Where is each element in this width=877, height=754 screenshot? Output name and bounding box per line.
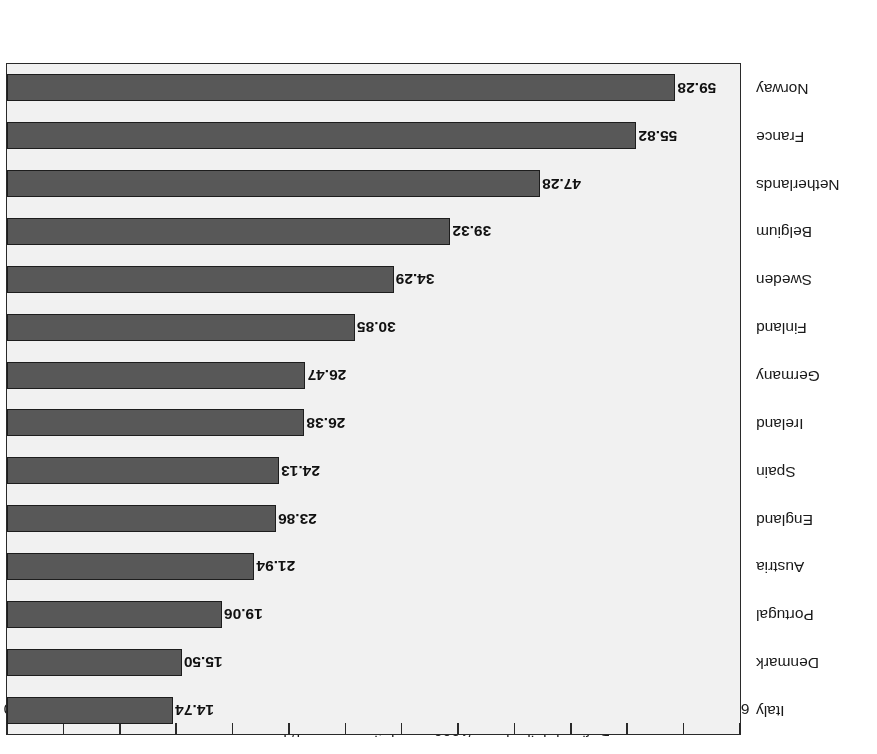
bar-value-label: 14.74 bbox=[175, 701, 221, 719]
category-label: Norway bbox=[756, 80, 809, 98]
category-label: Portugal bbox=[756, 606, 814, 624]
bar bbox=[7, 697, 173, 724]
bar bbox=[7, 649, 182, 676]
x-axis-tick-mark bbox=[457, 723, 459, 734]
x-axis-tick-mark bbox=[683, 723, 685, 734]
x-axis-tick-mark bbox=[570, 723, 572, 734]
bar bbox=[7, 601, 222, 628]
bar-value-label: 39.32 bbox=[452, 223, 498, 241]
bar bbox=[7, 409, 304, 436]
x-axis-tick-mark bbox=[63, 723, 65, 734]
x-axis-tick-mark bbox=[288, 723, 290, 734]
bar bbox=[7, 170, 540, 197]
bar-value-label: 24.13 bbox=[281, 462, 327, 480]
bar bbox=[7, 122, 636, 149]
bar-value-label: 47.28 bbox=[542, 175, 588, 193]
bar-value-label: 19.06 bbox=[224, 605, 270, 623]
x-axis-tick-mark bbox=[232, 723, 234, 734]
bar-value-label: 21.94 bbox=[256, 558, 302, 576]
category-label: Denmark bbox=[756, 654, 819, 672]
bar bbox=[7, 314, 355, 341]
category-label: Spain bbox=[756, 463, 796, 481]
x-axis-tick-mark bbox=[514, 723, 516, 734]
category-label: Ireland bbox=[756, 415, 803, 433]
category-label: Austria bbox=[756, 559, 804, 577]
bar-value-label: 15.50 bbox=[184, 653, 230, 671]
x-axis-tick-mark bbox=[739, 723, 741, 734]
category-label: Italy bbox=[756, 702, 784, 720]
bar-value-label: 23.86 bbox=[278, 510, 324, 528]
bar bbox=[7, 266, 394, 293]
bar bbox=[7, 362, 306, 389]
bar bbox=[7, 74, 675, 101]
bar bbox=[7, 553, 254, 580]
x-axis-tick-mark bbox=[119, 723, 121, 734]
x-axis-tick-mark bbox=[345, 723, 347, 734]
bar bbox=[7, 505, 276, 532]
x-axis-tick-mark bbox=[175, 723, 177, 734]
bar-value-label: 26.47 bbox=[308, 366, 354, 384]
plot-area: 14.7415.5019.0621.9423.8624.1326.3826.47… bbox=[6, 63, 741, 735]
category-label: Netherlands bbox=[756, 176, 840, 194]
category-label: England bbox=[756, 511, 813, 529]
bar-value-label: 30.85 bbox=[357, 318, 403, 336]
category-label: Belgium bbox=[756, 224, 812, 242]
bar bbox=[7, 218, 450, 245]
x-axis-tick-mark bbox=[401, 723, 403, 734]
category-axis-labels: ItalyDenmarkPortugalAustriaEnglandSpainI… bbox=[748, 65, 877, 735]
category-label: Finland bbox=[756, 319, 807, 337]
x-axis-tick-mark bbox=[626, 723, 628, 734]
bar bbox=[7, 457, 279, 484]
bar-value-label: 55.82 bbox=[638, 127, 684, 145]
category-label: France bbox=[756, 128, 804, 146]
category-label: Sweden bbox=[756, 271, 812, 289]
category-label: Germany bbox=[756, 367, 820, 385]
bar-chart-figure: Defined daily doses/1000 population cove… bbox=[0, 0, 877, 754]
bar-value-label: 34.29 bbox=[396, 270, 442, 288]
bar-value-label: 59.28 bbox=[677, 79, 723, 97]
bar-value-label: 26.38 bbox=[306, 414, 352, 432]
x-axis-tick-mark bbox=[6, 723, 8, 734]
